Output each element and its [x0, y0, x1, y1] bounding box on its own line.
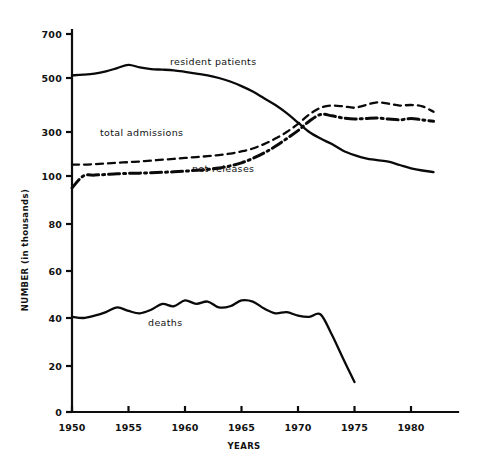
series-label-total-admissions: total admissions	[100, 127, 183, 138]
y-tick-label: 500	[42, 73, 63, 84]
series-line-deaths	[72, 300, 355, 382]
y-tick-label: 100	[42, 171, 63, 182]
x-tick-label: 1970	[284, 422, 311, 433]
x-tick-label: 1980	[397, 422, 424, 433]
x-tick-label: 1950	[58, 422, 85, 433]
x-axis-title: YEARS	[226, 441, 260, 451]
chart-container: 020406080100300500700 195019551960196519…	[0, 0, 480, 464]
series-label-net-releases: net releases	[192, 163, 254, 174]
y-tick-label: 60	[48, 266, 62, 277]
x-tick-label: 1965	[228, 422, 255, 433]
chart-axes	[72, 30, 458, 412]
series-line-net-releases	[72, 114, 434, 188]
y-axis-title: NUMBER (in thousands)	[20, 189, 30, 311]
y-tick-label: 80	[48, 219, 62, 230]
y-tick-label: 300	[42, 127, 63, 138]
y-tick-label: 20	[48, 361, 62, 372]
series-line-resident-patients	[72, 65, 434, 172]
y-axis-ticks: 020406080100300500700	[42, 29, 72, 418]
x-tick-label: 1975	[341, 422, 368, 433]
y-tick-label: 40	[48, 313, 62, 324]
line-chart: 020406080100300500700 195019551960196519…	[0, 0, 480, 464]
series-label-resident-patients: resident patients	[170, 56, 256, 67]
y-tick-label: 700	[42, 29, 63, 40]
x-tick-label: 1960	[171, 422, 198, 433]
x-axis-ticks: 1950195519601965197019751980	[58, 406, 424, 433]
y-tick-label: 0	[55, 407, 62, 418]
x-tick-label: 1955	[115, 422, 142, 433]
chart-series-group	[72, 65, 434, 382]
series-label-deaths: deaths	[148, 317, 183, 328]
